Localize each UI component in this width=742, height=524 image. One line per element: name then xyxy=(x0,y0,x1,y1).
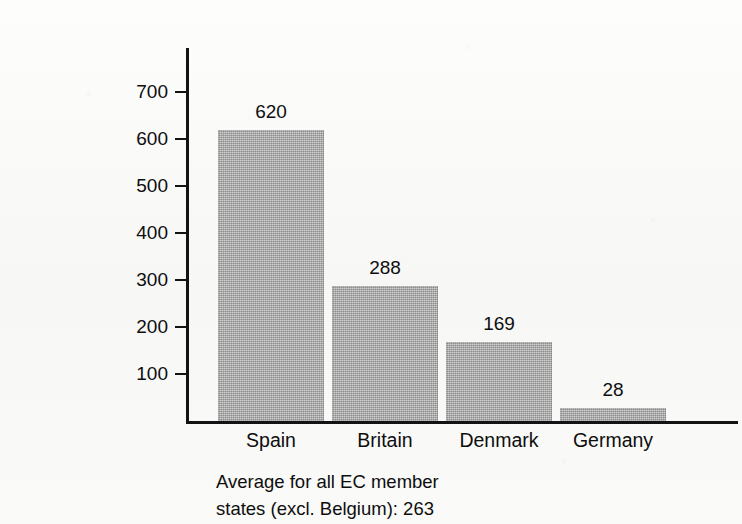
bar-spain[interactable] xyxy=(218,130,324,421)
plot-area: 620Spain288Britain169Denmark28Germany xyxy=(40,16,742,524)
bar-value-label-denmark: 169 xyxy=(439,314,559,333)
bar-value-label-germany: 28 xyxy=(553,380,673,399)
bar-denmark[interactable] xyxy=(446,342,552,421)
bar-chart-figure: Working days lost/1000 employees 7006005… xyxy=(40,16,702,508)
bar-value-label-britain: 288 xyxy=(325,258,445,277)
bar-germany[interactable] xyxy=(560,408,666,421)
x-axis-category-label-germany: Germany xyxy=(543,428,683,452)
bar-value-label-spain: 620 xyxy=(211,102,331,121)
chart-caption-line-2: states (excl. Belgium): 263 xyxy=(216,495,636,522)
chart-caption-line-1: Average for all EC member xyxy=(216,468,636,495)
bar-britain[interactable] xyxy=(332,286,438,421)
chart-caption: Average for all EC member states (excl. … xyxy=(216,468,636,522)
